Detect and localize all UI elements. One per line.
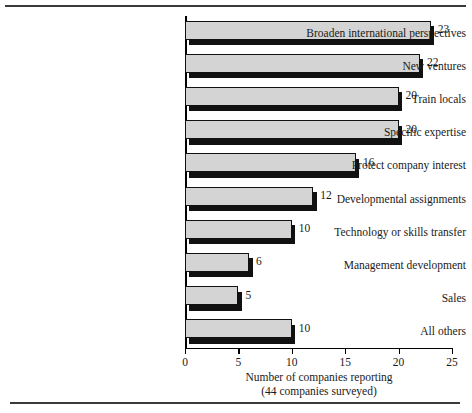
- x-tick-mark: [292, 348, 293, 354]
- category-label: Developmental assignments: [294, 192, 472, 206]
- category-label: Management development: [294, 258, 472, 272]
- x-tick-mark: [345, 348, 346, 354]
- x-axis-title-line1: Number of companies reporting: [245, 371, 392, 383]
- category-label: Sales: [294, 291, 472, 305]
- category-label: New ventures: [294, 59, 472, 73]
- bar[interactable]: [185, 253, 249, 272]
- x-tick-mark: [238, 348, 239, 354]
- category-label: All others: [294, 324, 472, 338]
- x-tick-label: 15: [339, 355, 351, 369]
- x-tick-label: 5: [236, 355, 242, 369]
- bar[interactable]: [185, 319, 292, 338]
- category-label: Specific expertise: [294, 125, 472, 139]
- category-label: Technology or skills transfer: [294, 225, 472, 239]
- x-tick-mark: [185, 348, 186, 354]
- x-axis-title-line2: (44 companies surveyed): [185, 385, 453, 399]
- top-divider-rule: [5, 5, 466, 7]
- x-tick-label: 0: [182, 355, 188, 369]
- x-tick-label: 25: [446, 355, 458, 369]
- x-tick-label: 20: [393, 355, 405, 369]
- x-tick-mark: [399, 348, 400, 354]
- x-tick-label: 10: [286, 355, 298, 369]
- category-label: Train locals: [294, 92, 472, 106]
- bottom-divider-rule: [10, 402, 460, 404]
- bar-value-label: 5: [245, 286, 251, 305]
- bar-value-label: 6: [256, 252, 262, 271]
- category-label: Broaden international perspectives: [294, 26, 472, 40]
- category-label: Protect company interest: [294, 158, 472, 172]
- x-tick-mark: [452, 348, 453, 354]
- bar[interactable]: [185, 220, 292, 239]
- bar-chart-figure: 232220201612106510 Number of companies r…: [0, 0, 472, 413]
- x-axis-title: Number of companies reporting (44 compan…: [185, 371, 453, 398]
- bar[interactable]: [185, 286, 238, 305]
